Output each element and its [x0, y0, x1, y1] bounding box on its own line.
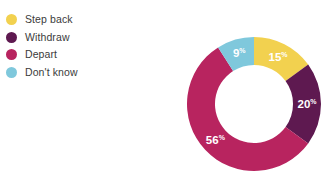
- legend-item-label: Don't know: [25, 67, 78, 78]
- legend-item-withdraw[interactable]: Withdraw: [6, 29, 116, 47]
- donut-chart: 15%20%56%9%: [187, 31, 321, 177]
- legend-swatch-icon: [6, 14, 17, 25]
- legend-item-depart[interactable]: Depart: [6, 46, 116, 64]
- legend-swatch-icon: [6, 32, 17, 43]
- chart-page: Step back Withdraw Depart Don't know 15%…: [0, 0, 329, 178]
- legend-item-dont-know[interactable]: Don't know: [6, 64, 116, 82]
- legend-item-label: Depart: [25, 49, 57, 60]
- donut-chart-svg: 15%20%56%9%: [187, 31, 321, 177]
- legend-swatch-icon: [6, 67, 17, 78]
- legend-item-step-back[interactable]: Step back: [6, 11, 116, 29]
- chart-legend: Step back Withdraw Depart Don't know: [6, 11, 116, 81]
- legend-swatch-icon: [6, 49, 17, 60]
- legend-item-label: Step back: [25, 14, 73, 25]
- legend-item-label: Withdraw: [25, 32, 70, 43]
